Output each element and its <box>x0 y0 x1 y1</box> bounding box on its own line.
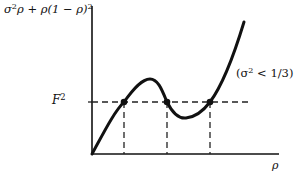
threshold-label: F2 <box>52 93 66 107</box>
x-axis-label: ρ <box>272 159 278 172</box>
intersection-point-3 <box>207 99 214 106</box>
intersection-point-1 <box>121 99 128 106</box>
intersection-point-2 <box>164 99 171 106</box>
cubic-curve <box>92 22 244 154</box>
condition-label: (σ2 < 1/3) <box>236 66 293 80</box>
diagram-canvas <box>0 0 307 178</box>
y-axis-label: σ2ρ + ρ(1 − ρ)2 <box>4 2 93 16</box>
